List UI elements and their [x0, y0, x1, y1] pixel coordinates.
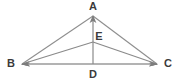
segment-be: [22, 42, 93, 64]
geometry-diagram: A B C D E: [0, 0, 177, 82]
segment-ab: [22, 16, 93, 64]
segment-ec: [93, 42, 157, 64]
arrowhead-group: [21, 15, 158, 67]
vertex-label-e: E: [95, 30, 102, 42]
label-group: A B C D E: [7, 0, 172, 80]
vertex-label-d: D: [89, 68, 97, 80]
vertex-label-a: A: [89, 0, 97, 12]
vertex-label-b: B: [7, 57, 15, 69]
diagram-canvas: A B C D E: [0, 0, 177, 82]
vertex-label-c: C: [164, 57, 172, 69]
segment-group: [22, 16, 157, 64]
